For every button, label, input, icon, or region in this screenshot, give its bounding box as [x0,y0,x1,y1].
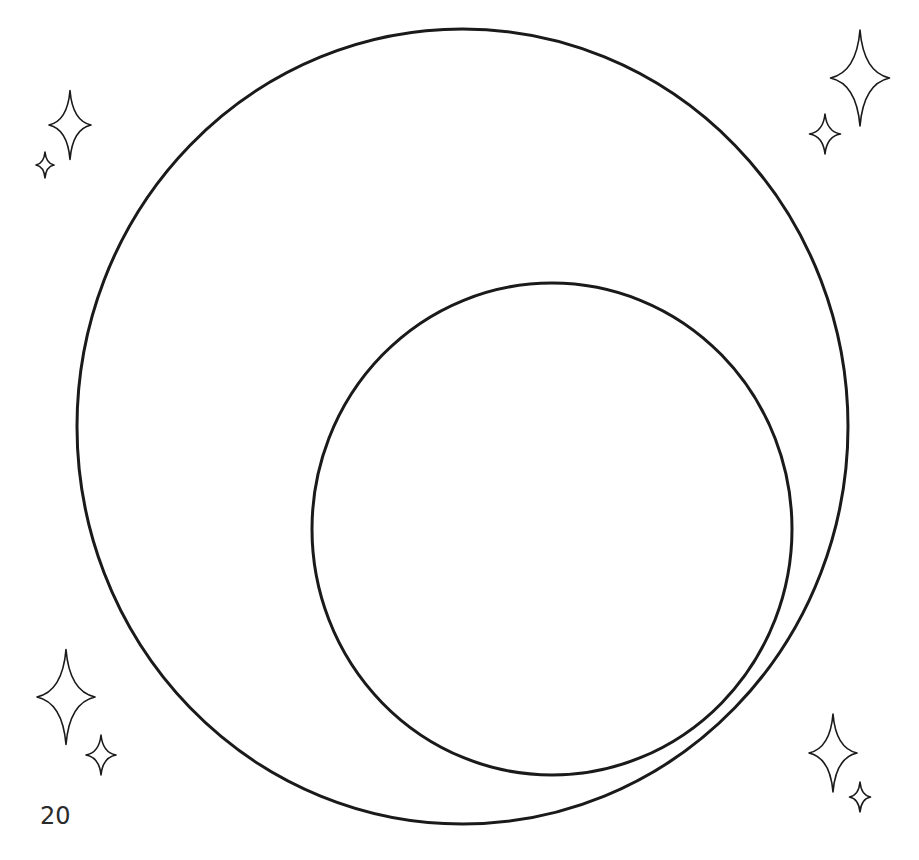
sparkle-top-right-small-icon [810,114,841,154]
sparkle-top-left-large-icon [49,91,91,160]
sparkle-top-left-small-icon [36,152,54,178]
page-number: 20 [40,804,71,828]
sparkle-bottom-left-large-icon [37,650,95,745]
outer-circle [77,29,848,824]
sparkle-decorations [36,30,890,812]
coloring-page-canvas [0,0,919,860]
inner-circle [312,283,792,775]
sparkle-bottom-left-small-icon [86,735,116,775]
sparkle-bottom-right-small-icon [850,782,871,812]
sparkle-top-right-large-icon [831,30,890,126]
sparkle-bottom-right-large-icon [809,714,857,792]
